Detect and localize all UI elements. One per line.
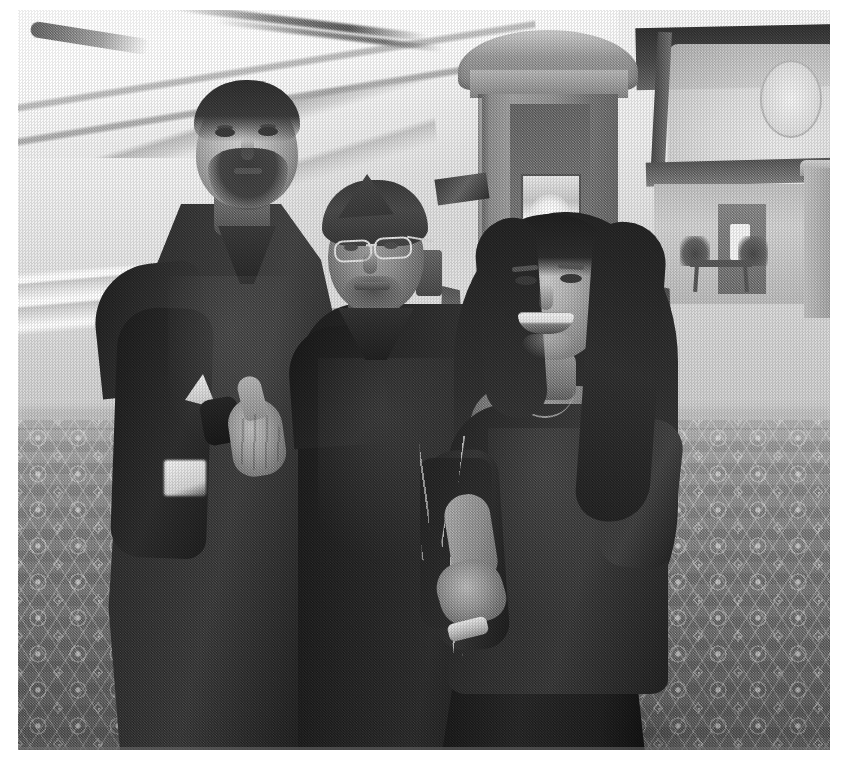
woman-eye-left (515, 276, 537, 285)
scan-top-edge (18, 8, 830, 10)
woman-nose (539, 284, 553, 310)
left-man-pocket-highlight (164, 460, 206, 496)
page-canvas: Three people posing in a hotel lobby (0, 0, 847, 765)
scan-bottom-edge (18, 747, 830, 750)
woman-eye-right (560, 274, 582, 283)
middle-man-nose (363, 252, 377, 274)
left-man-mouth (234, 168, 262, 174)
eyeglasses-lens-right (373, 236, 412, 260)
right-pillar (804, 168, 830, 318)
left-man-nose (241, 138, 254, 160)
scanned-photograph (18, 8, 830, 750)
left-man-eye-right (258, 127, 278, 136)
woman-chin (522, 334, 574, 358)
wall-medallion (760, 60, 822, 138)
middle-man-mouth (354, 282, 390, 290)
left-man-eye-left (215, 128, 235, 137)
